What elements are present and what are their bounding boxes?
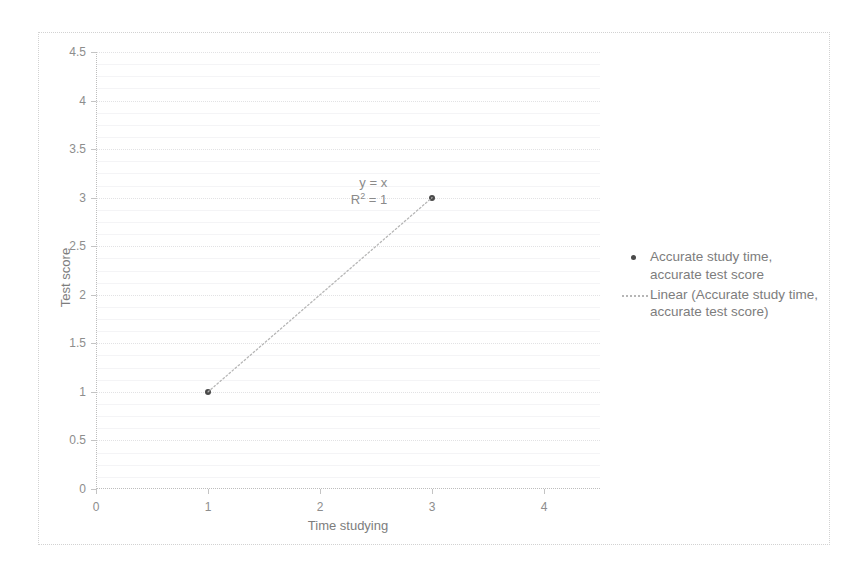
y-tick-label: 0 <box>6 482 86 496</box>
legend-label-trendline: Linear (Accurate study time, accurate te… <box>650 286 822 322</box>
legend-label-scatter: Accurate study time, accurate test score <box>650 248 822 284</box>
equation-line: y = x <box>277 175 387 191</box>
r-symbol: R <box>351 193 360 208</box>
chart-container: Test score Time studying 00.511.522.533.… <box>0 0 868 570</box>
x-tick-label: 3 <box>429 500 436 514</box>
x-axis-tick <box>544 489 545 494</box>
r-value: = 1 <box>365 193 387 208</box>
y-tick-label: 0.5 <box>6 433 86 447</box>
x-tick-label: 1 <box>205 500 212 514</box>
y-tick-label: 2.5 <box>6 239 86 253</box>
x-axis-tick <box>432 489 433 494</box>
legend-item-scatter[interactable]: Accurate study time, accurate test score <box>622 248 822 284</box>
plot-area: y = x R2 = 1 <box>96 52 600 489</box>
y-tick-label: 3 <box>6 191 86 205</box>
trendline-equation-label: y = x R2 = 1 <box>277 175 387 209</box>
r-squared-line: R2 = 1 <box>277 191 387 209</box>
y-tick-label: 4.5 <box>6 45 86 59</box>
x-axis-tick <box>96 489 97 494</box>
x-tick-label: 4 <box>541 500 548 514</box>
trendline <box>208 198 432 392</box>
legend-item-trendline[interactable]: Linear (Accurate study time, accurate te… <box>622 286 822 322</box>
scatter-dot-icon <box>622 248 650 265</box>
y-tick-label: 4 <box>6 94 86 108</box>
x-axis-title: Time studying <box>96 518 600 533</box>
dotted-line-icon <box>622 286 650 303</box>
x-tick-label: 2 <box>317 500 324 514</box>
x-axis-tick <box>208 489 209 494</box>
trendline-layer <box>96 52 600 489</box>
y-tick-label: 2 <box>6 288 86 302</box>
y-tick-label: 3.5 <box>6 142 86 156</box>
x-axis-tick <box>320 489 321 494</box>
x-tick-label: 0 <box>93 500 100 514</box>
y-tick-label: 1 <box>6 385 86 399</box>
y-tick-label: 1.5 <box>6 336 86 350</box>
chart-legend: Accurate study time, accurate test score… <box>622 248 822 323</box>
